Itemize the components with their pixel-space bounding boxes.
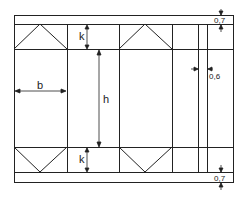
label-k-top: k bbox=[79, 30, 85, 42]
box-net-diagram: b h k k 0,7 0,7 0,6 bbox=[0, 0, 243, 197]
bottom-triangle-2 bbox=[119, 147, 172, 172]
top-triangle-2 bbox=[119, 24, 172, 49]
arrow-left-icon bbox=[15, 89, 20, 93]
arrow-up-icon bbox=[219, 25, 223, 29]
label-h: h bbox=[103, 93, 109, 105]
arrow-left-icon bbox=[208, 67, 212, 71]
label-b: b bbox=[37, 79, 43, 91]
arrow-down-icon bbox=[85, 45, 89, 49]
label-strip-top: 0,7 bbox=[214, 16, 226, 25]
arrow-up-icon bbox=[219, 183, 223, 187]
label-gap: 0,6 bbox=[209, 72, 221, 81]
arrow-down-icon bbox=[219, 168, 223, 172]
arrow-down-icon bbox=[219, 11, 223, 15]
arrow-down-icon bbox=[97, 142, 101, 147]
arrow-right-icon bbox=[61, 89, 66, 93]
arrow-up-icon bbox=[85, 148, 89, 152]
label-k-bottom: k bbox=[79, 153, 85, 165]
outer-frame bbox=[15, 16, 234, 183]
arrow-up-icon bbox=[97, 50, 101, 55]
bottom-triangle-1 bbox=[14, 147, 67, 172]
arrow-up-icon bbox=[85, 25, 89, 29]
label-strip-bottom: 0,7 bbox=[214, 174, 226, 183]
top-triangle-1 bbox=[14, 24, 67, 49]
arrow-right-icon bbox=[194, 67, 198, 71]
arrow-down-icon bbox=[85, 168, 89, 172]
